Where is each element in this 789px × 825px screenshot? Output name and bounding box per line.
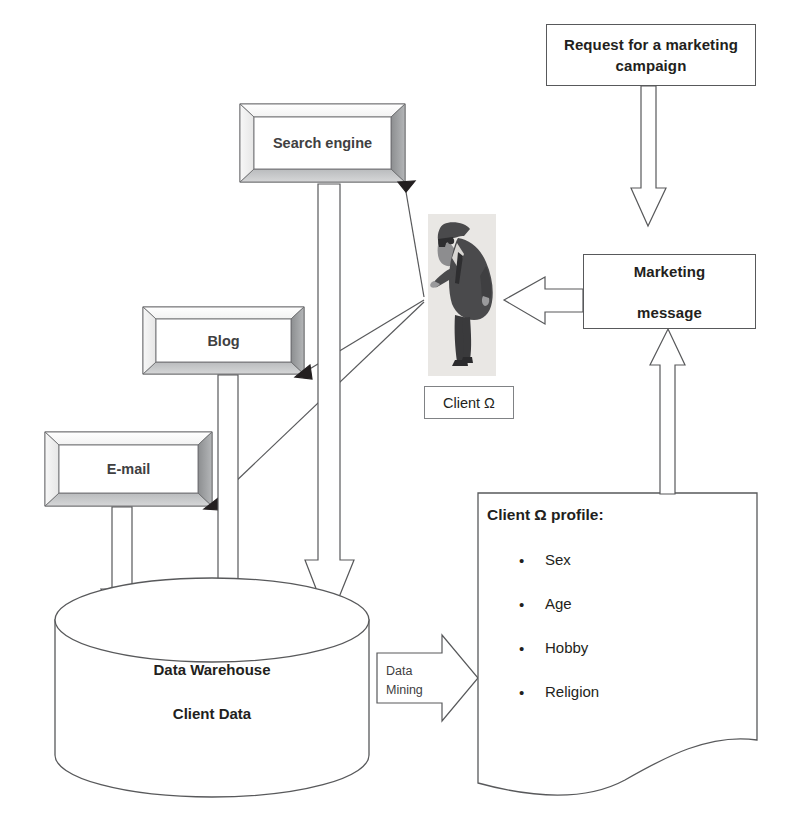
blog-box[interactable]: Blog: [156, 319, 291, 362]
profile-item-age: Age: [545, 595, 572, 612]
profile-bullet-icon-2: •: [519, 640, 524, 657]
diagram-canvas: Request for a marketing campaign Marketi…: [0, 0, 789, 825]
client-label-text: Client Ω: [443, 395, 495, 411]
profile-to-marketing-arrow: [650, 329, 685, 494]
email-label: E-mail: [59, 461, 198, 477]
marketing-box-line-1: Marketing: [634, 263, 706, 280]
profile-item-religion: Religion: [545, 683, 599, 700]
request-box-line-1: Request for a marketing: [564, 36, 738, 53]
client-businessman-figure: [428, 214, 496, 376]
marketing-box-line-2: message: [637, 304, 702, 321]
request-box-line-2: campaign: [616, 57, 687, 74]
marketing-to-client-arrow: [504, 277, 583, 324]
profile-bullet-icon-3: •: [519, 684, 524, 701]
search-engine-label: Search engine: [254, 135, 391, 151]
warehouse-label-line-1: Data Warehouse: [55, 661, 369, 678]
data-mining-line-2: Mining: [386, 681, 446, 700]
search-engine-to-warehouse-arrow: [305, 184, 354, 622]
email-box[interactable]: E-mail: [59, 445, 198, 493]
profile-bullet-icon-1: •: [519, 596, 524, 613]
profile-item-sex: Sex: [545, 551, 571, 568]
data-warehouse-cylinder[interactable]: [55, 578, 369, 797]
marketing-message-box[interactable]: Marketing message: [583, 254, 756, 329]
request-to-marketing-arrow: [631, 86, 666, 226]
warehouse-label-line-2: Client Data: [55, 705, 369, 722]
search-engine-box[interactable]: Search engine: [254, 117, 391, 169]
data-mining-line-1: Data: [386, 662, 446, 681]
profile-title: Client Ω profile:: [487, 506, 604, 524]
profile-bullet-icon-0: •: [519, 552, 524, 569]
blog-label: Blog: [156, 333, 291, 349]
request-box[interactable]: Request for a marketing campaign: [546, 24, 756, 86]
data-mining-label: Data Mining: [386, 662, 446, 701]
profile-item-hobby: Hobby: [545, 639, 588, 656]
client-label-box[interactable]: Client Ω: [424, 386, 514, 419]
diagram-vector-layer: [0, 0, 789, 825]
